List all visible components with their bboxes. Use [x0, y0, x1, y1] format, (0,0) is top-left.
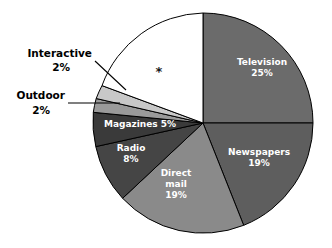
- slice-label-television-value: 25%: [251, 68, 273, 78]
- pie-chart-svg: Television 25% Newspapers 19% Direct mai…: [0, 0, 332, 248]
- asterisk-annotation: *: [156, 64, 163, 79]
- slice-label-magazines: Magazines 5%: [104, 119, 176, 129]
- slice-label-television-name: Television: [237, 57, 287, 67]
- pie-chart-container: Television 25% Newspapers 19% Direct mai…: [0, 0, 332, 248]
- slice-label-direct-mail-value: 19%: [165, 190, 187, 200]
- slice-label-direct-mail-line2: mail: [165, 179, 187, 189]
- callout-labels: Interactive 2% Outdoor 2%: [16, 47, 92, 116]
- callout-interactive-name: Interactive: [27, 47, 92, 59]
- slice-label-direct-mail-line1: Direct: [161, 168, 192, 178]
- slice-label-newspapers-name: Newspapers: [228, 147, 290, 157]
- slice-label-radio-value: 8%: [123, 154, 138, 164]
- slice-label-newspapers-value: 19%: [248, 158, 270, 168]
- callout-interactive-value: 2%: [52, 61, 70, 73]
- slice-label-radio-name: Radio: [117, 143, 146, 153]
- callout-outdoor-value: 2%: [32, 104, 50, 116]
- callout-outdoor-name: Outdoor: [16, 89, 65, 101]
